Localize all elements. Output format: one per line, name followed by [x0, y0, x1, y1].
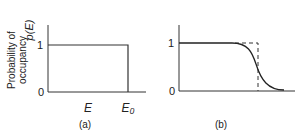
panel-b: 1 0 (b): [168, 25, 295, 130]
y-label-line1: Probability of: [6, 31, 17, 89]
panel-a: 1 0 E E₀ (a): [37, 25, 146, 130]
y-label-line2: occupancy: [17, 36, 28, 84]
panel-a-caption: (a): [79, 119, 91, 130]
panel-b-tick-one: 1: [168, 37, 174, 49]
panel-a-tick-zero: 0: [38, 86, 44, 98]
panel-b-fermi-curve: [179, 43, 284, 90]
panel-b-dashed-step: [235, 43, 258, 91]
panel-a-e0-label: E₀: [121, 101, 134, 115]
panel-a-x-label: E: [84, 101, 93, 115]
panel-b-caption: (b): [215, 119, 227, 130]
panel-a-step-curve: [48, 45, 128, 92]
panel-a-tick-one: 1: [37, 39, 43, 51]
panel-b-tick-zero: 0: [169, 85, 175, 97]
p-of-e-label: p(E): [23, 19, 35, 41]
y-symbol: p(E): [23, 19, 35, 41]
occupancy-diagram: Probability of occupancy p(E) 1 0 E E₀ (…: [0, 0, 302, 136]
